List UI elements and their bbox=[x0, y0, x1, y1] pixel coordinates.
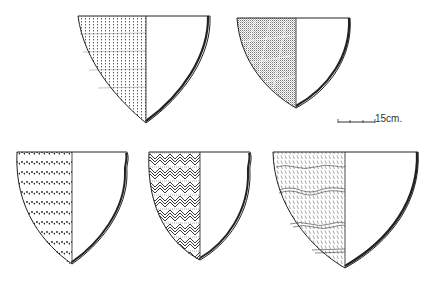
scale-label: 15cm. bbox=[375, 113, 402, 124]
vessel-4-wall-section bbox=[200, 153, 250, 258]
vessel-5-wall-section bbox=[345, 152, 417, 266]
pottery-plate bbox=[0, 0, 429, 281]
vessel-5-decorated-half bbox=[273, 152, 345, 268]
vessel-3 bbox=[17, 152, 128, 264]
vessel-4-decorated-half bbox=[149, 152, 200, 260]
vessel-2-decorated-half bbox=[237, 18, 296, 108]
vessel-5 bbox=[273, 152, 418, 268]
vessel-3-wall-section bbox=[72, 153, 127, 262]
vessel-2 bbox=[237, 18, 350, 108]
vessel-1 bbox=[78, 16, 210, 123]
vessel-1-wall-section bbox=[146, 16, 208, 121]
vessel-4 bbox=[149, 152, 251, 260]
vessel-3-decorated-half bbox=[17, 152, 72, 264]
scale-bar bbox=[338, 119, 375, 123]
